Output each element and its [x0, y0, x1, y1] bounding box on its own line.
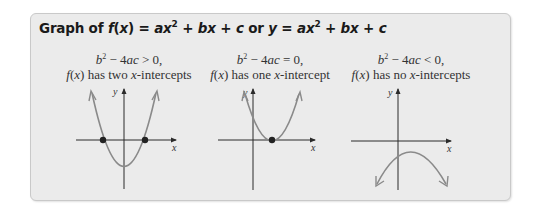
x-intercept-point — [100, 137, 106, 143]
parabola-curve — [377, 152, 446, 184]
x-intercept-point — [269, 137, 275, 143]
x-axis-label: x — [446, 143, 452, 154]
graph-no-intercepts: y x — [351, 87, 452, 190]
y-axis-label: y — [112, 86, 118, 97]
graph-two-intercepts: y x — [76, 86, 177, 189]
x-intercept-point — [142, 137, 148, 143]
x-axis-label: x — [310, 142, 316, 153]
graph-one-intercept: y x — [218, 87, 316, 190]
x-axis-label: x — [171, 142, 177, 153]
graphs-svg: y x y x y x — [0, 0, 534, 209]
y-axis-label: y — [387, 87, 393, 98]
